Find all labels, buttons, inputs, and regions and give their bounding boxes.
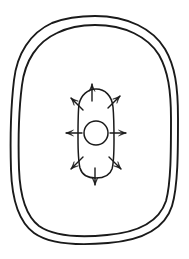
diagram-canvas: [0, 0, 189, 259]
figure-background: [0, 0, 189, 259]
figure-svg: [0, 0, 189, 259]
